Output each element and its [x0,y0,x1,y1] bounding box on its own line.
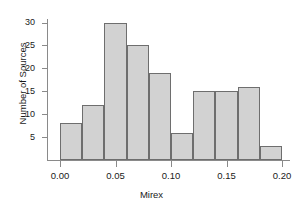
y-tick-mark [42,45,48,46]
x-axis-line [47,160,290,161]
y-tick-mark [42,137,48,138]
histogram-bar [127,45,149,160]
y-tick-mark [42,91,48,92]
x-tick-label: 0.05 [96,170,136,181]
x-tick-mark [282,161,283,167]
plot-area [60,18,282,160]
x-tick-label: 0.15 [207,170,247,181]
x-tick-mark [227,161,228,167]
y-tick-mark [42,114,48,115]
y-tick-mark [42,23,48,24]
histogram-bar [260,146,282,160]
histogram-bar [149,73,171,160]
y-axis-title: Number of Sources [17,24,28,144]
histogram-bar [193,91,215,160]
histogram-bar [60,123,82,160]
y-axis-line [47,19,48,161]
histogram-figure: 51015202530 0.000.050.100.150.20 Mirex N… [0,0,303,211]
x-tick-mark [60,161,61,167]
x-tick-mark [116,161,117,167]
x-tick-label: 0.20 [262,170,302,181]
x-tick-mark [171,161,172,167]
histogram-bar [215,91,237,160]
x-tick-label: 0.00 [40,170,80,181]
x-axis-title: Mirex [0,189,303,200]
histogram-bar [238,87,260,160]
x-tick-label: 0.10 [151,170,191,181]
histogram-bar [82,105,104,160]
y-tick-mark [42,68,48,69]
histogram-bar [171,133,193,160]
histogram-bar [104,23,126,160]
